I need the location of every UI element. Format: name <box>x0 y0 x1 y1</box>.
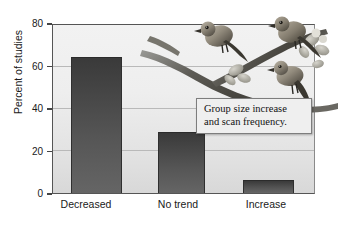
callout-line-1: Group size increase <box>204 103 305 116</box>
ytick-label-20: 20 <box>21 147 43 157</box>
ytick-label-60: 60 <box>21 62 43 72</box>
callout-line-2: and scan frequency. <box>204 116 305 129</box>
callout-annotation: Group size increase and scan frequency. <box>196 98 312 134</box>
bar-chart-figure: 80 60 40 20 0 Percent of studies Decreas… <box>0 0 340 227</box>
bar-decreased <box>71 57 122 194</box>
xtick-label-increase: Increase <box>216 198 316 210</box>
xtick-label-no-trend: No trend <box>128 198 228 210</box>
ytick-mark-60 <box>47 66 52 68</box>
bar-no-trend <box>158 132 205 193</box>
ytick-mark-20 <box>47 151 52 153</box>
ytick-mark-0 <box>47 193 52 195</box>
y-axis-title: Percent of studies <box>12 12 24 132</box>
ytick-mark-40 <box>47 108 52 110</box>
ytick-label-80: 80 <box>21 19 43 29</box>
bar-increase <box>243 180 294 193</box>
ytick-mark-80 <box>47 23 52 25</box>
xtick-label-decreased: Decreased <box>36 198 136 210</box>
ytick-label-40: 40 <box>21 104 43 114</box>
